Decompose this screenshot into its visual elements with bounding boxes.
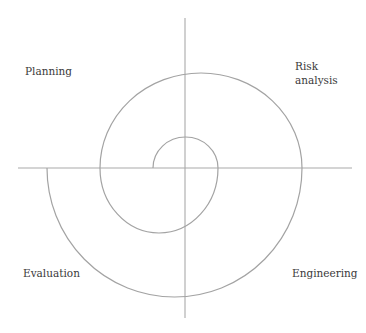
- risk-analysis-label-line-1: Risk: [295, 59, 338, 73]
- risk-analysis-label-line-2: analysis: [295, 73, 338, 87]
- engineering-label: Engineering: [292, 266, 358, 280]
- planning-label: Planning: [25, 64, 72, 78]
- risk-analysis-label: Risk analysis: [295, 59, 338, 87]
- spiral-turn-1-lower: [100, 168, 218, 233]
- spiral-turn-2-upper: [100, 73, 302, 168]
- spiral-diagram: [0, 0, 366, 333]
- spiral-turn-2-lower: [47, 168, 302, 297]
- evaluation-label: Evaluation: [23, 266, 80, 280]
